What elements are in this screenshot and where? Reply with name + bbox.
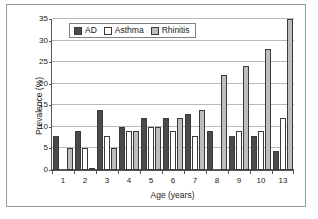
bar-rhinitis-13 bbox=[287, 19, 293, 170]
y-tick-label: 0 bbox=[44, 166, 48, 174]
bar-asthma-5 bbox=[148, 127, 154, 170]
x-tick-mark bbox=[52, 170, 53, 174]
x-tick-label: 6 bbox=[171, 177, 175, 185]
bar-ad-4 bbox=[119, 127, 125, 170]
x-tick-mark bbox=[118, 170, 119, 174]
legend-swatch-asthma bbox=[104, 27, 112, 35]
x-tick-label: 10 bbox=[257, 177, 266, 185]
bar-rhinitis-1 bbox=[67, 148, 73, 170]
bar-rhinitis-6 bbox=[177, 118, 183, 170]
x-tick-mark bbox=[96, 170, 97, 174]
bar-group: 13 bbox=[272, 19, 294, 170]
bar-rhinitis-2 bbox=[89, 168, 95, 170]
x-tick-mark bbox=[162, 170, 163, 174]
y-tick-label: 20 bbox=[39, 80, 48, 88]
bar-ad-5 bbox=[141, 118, 147, 170]
x-tick-mark bbox=[293, 170, 294, 174]
x-tick-label: 13 bbox=[279, 177, 288, 185]
bar-asthma-2 bbox=[82, 148, 88, 170]
y-tick-label: 25 bbox=[39, 58, 48, 66]
legend-label-asthma: Asthma bbox=[115, 26, 144, 35]
x-tick-label: 7 bbox=[193, 177, 197, 185]
bar-ad-6 bbox=[163, 118, 169, 170]
bar-group: 4 bbox=[118, 19, 140, 170]
bar-rhinitis-4 bbox=[133, 131, 139, 170]
bar-ad-1 bbox=[53, 136, 59, 171]
bar-group: 7 bbox=[184, 19, 206, 170]
bar-rhinitis-8 bbox=[221, 75, 227, 170]
legend-item-rhinitis: Rhinitis bbox=[151, 26, 190, 35]
y-tick-label: 5 bbox=[44, 144, 48, 152]
bar-asthma-4 bbox=[126, 131, 132, 170]
bar-groups: 1234567891013 bbox=[52, 19, 294, 170]
bar-rhinitis-9 bbox=[243, 66, 249, 170]
bar-ad-7 bbox=[185, 114, 191, 170]
x-tick-mark bbox=[272, 170, 273, 174]
bar-ad-3 bbox=[97, 110, 103, 170]
legend-item-asthma: Asthma bbox=[104, 26, 144, 35]
bar-group: 6 bbox=[162, 19, 184, 170]
legend-item-ad: AD bbox=[74, 26, 97, 35]
bar-asthma-7 bbox=[192, 136, 198, 171]
bar-group: 2 bbox=[74, 19, 96, 170]
bar-asthma-13 bbox=[280, 118, 286, 170]
legend-swatch-rhinitis bbox=[151, 27, 159, 35]
bar-group: 10 bbox=[250, 19, 272, 170]
bar-asthma-10 bbox=[258, 131, 264, 170]
x-tick-mark bbox=[184, 170, 185, 174]
x-tick-mark bbox=[228, 170, 229, 174]
bar-rhinitis-3 bbox=[111, 148, 117, 170]
x-tick-label: 3 bbox=[105, 177, 109, 185]
x-tick-mark bbox=[74, 170, 75, 174]
x-tick-mark bbox=[250, 170, 251, 174]
y-tick-label: 35 bbox=[39, 15, 48, 23]
x-tick-label: 2 bbox=[83, 177, 87, 185]
y-tick-label: 30 bbox=[39, 37, 48, 45]
bar-group: 1 bbox=[52, 19, 74, 170]
x-tick-mark bbox=[140, 170, 141, 174]
legend-label-ad: AD bbox=[85, 26, 97, 35]
bar-rhinitis-7 bbox=[199, 110, 205, 170]
bar-ad-9 bbox=[229, 136, 235, 171]
bar-rhinitis-5 bbox=[155, 127, 161, 170]
bar-ad-10 bbox=[251, 136, 257, 171]
bar-ad-8 bbox=[207, 131, 213, 170]
x-tick-label: 5 bbox=[149, 177, 153, 185]
x-axis-label: Age (years) bbox=[51, 190, 294, 200]
bar-group: 8 bbox=[206, 19, 228, 170]
bar-asthma-6 bbox=[170, 131, 176, 170]
chart-legend: ADAsthmaRhinitis bbox=[69, 23, 196, 38]
y-tick-label: 15 bbox=[39, 101, 48, 109]
bar-ad-2 bbox=[75, 131, 81, 170]
bar-rhinitis-10 bbox=[265, 49, 271, 170]
plot-area: 05101520253035 1234567891013 bbox=[51, 19, 294, 171]
chart-figure: Prevalence (%) 05101520253035 1234567891… bbox=[6, 4, 306, 207]
x-tick-mark bbox=[206, 170, 207, 174]
x-tick-label: 8 bbox=[215, 177, 219, 185]
bar-ad-13 bbox=[273, 151, 279, 170]
x-tick-label: 9 bbox=[237, 177, 241, 185]
bar-asthma-9 bbox=[236, 131, 242, 170]
legend-label-rhinitis: Rhinitis bbox=[162, 26, 190, 35]
legend-swatch-ad bbox=[74, 27, 82, 35]
bar-group: 3 bbox=[96, 19, 118, 170]
x-tick-label: 4 bbox=[127, 177, 131, 185]
x-tick-label: 1 bbox=[61, 177, 65, 185]
bar-group: 9 bbox=[228, 19, 250, 170]
bar-asthma-3 bbox=[104, 136, 110, 171]
y-tick-label: 10 bbox=[39, 123, 48, 131]
bar-group: 5 bbox=[140, 19, 162, 170]
